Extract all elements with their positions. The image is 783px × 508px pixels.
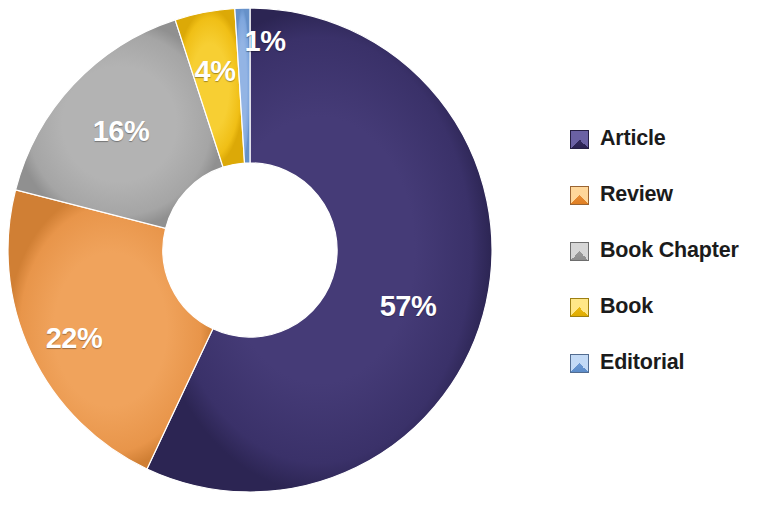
legend-swatch-icon-review: [570, 186, 589, 205]
legend-swatch-icon-book-chapter: [570, 242, 589, 261]
chart-legend: Article Review Book Chapter Book Editori…: [570, 126, 783, 376]
doughnut-plot-area: 57% 22% 16% 4% 1%: [0, 0, 520, 508]
legend-label-review: Review: [600, 184, 673, 206]
legend-item-book-chapter[interactable]: Book Chapter: [570, 238, 783, 264]
doughnut-svg: [0, 0, 520, 508]
legend-item-article[interactable]: Article: [570, 126, 783, 152]
legend-label-book-chapter: Book Chapter: [600, 240, 739, 262]
legend-swatch-icon-editorial: [570, 354, 589, 373]
legend-label-article: Article: [600, 128, 666, 150]
legend-swatch-icon-article: [570, 130, 589, 149]
doughnut-slices: [8, 8, 492, 492]
legend-item-editorial[interactable]: Editorial: [570, 350, 783, 376]
legend-item-book[interactable]: Book: [570, 294, 783, 320]
legend-swatch-icon-book: [570, 298, 589, 317]
legend-item-review[interactable]: Review: [570, 182, 783, 208]
legend-label-book: Book: [600, 296, 653, 318]
legend-label-editorial: Editorial: [600, 352, 684, 374]
doughnut-chart: 57% 22% 16% 4% 1% Article Review Book Ch…: [0, 0, 783, 508]
